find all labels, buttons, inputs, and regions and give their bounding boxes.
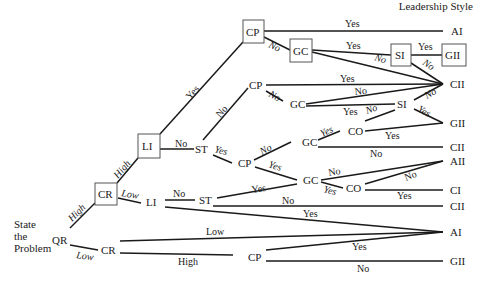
edge-gc-b-yes: Yes [322, 183, 337, 197]
edge-gc-a-yes: Yes [318, 123, 335, 138]
node-cp-lower: CP [238, 157, 251, 169]
edge-li-low-yes: Yes [303, 208, 318, 219]
edge-gc-mid-yes: Yes [343, 106, 358, 117]
header-title: Leadership Style [399, 0, 473, 12]
node-co-lower-b: CO [346, 182, 361, 194]
edge-cp-lower-yes: Yes [267, 158, 283, 173]
node-gc-top: GC [293, 45, 308, 57]
outcome-ai-bottom: AI [450, 226, 462, 238]
edge-cp-bottom-no: No [357, 263, 369, 274]
edge-cp-lower-no: No [257, 142, 273, 158]
outcome-ci: CI [450, 184, 461, 196]
outcome-cii-mid: CII [450, 141, 465, 153]
edge-cp-bottom-yes: Yes [352, 241, 367, 252]
edge-gc-top-yes: Yes [346, 40, 361, 51]
edge-cr-low-high: High [178, 256, 198, 267]
edge-cp-mid-no: No [266, 88, 282, 104]
edge-st-no: No [213, 103, 229, 119]
edge-qr-low: Low [75, 249, 95, 262]
edge-li-low-no: No [173, 188, 185, 199]
edge-li-no: No [175, 138, 187, 149]
node-cr-high: CR [98, 188, 113, 200]
decision-tree-diagram: Leadership Style State the Problem QR CR… [0, 0, 477, 283]
root-line-3: Problem [14, 242, 52, 254]
edge-co-a-yes: Yes [385, 130, 400, 141]
node-qr: QR [52, 234, 68, 246]
node-cp-top: CP [246, 26, 259, 38]
edge-cr-low-low: Low [206, 226, 225, 237]
edge-gc-a-no: No [370, 148, 382, 159]
outcome-gii-mid: GII [450, 117, 466, 129]
node-cp-bottom: CP [248, 251, 261, 263]
outcome-cii-top: CII [450, 78, 465, 90]
tree-edges [70, 31, 443, 261]
edge-co-b-no: No [403, 168, 418, 183]
node-li-low: LI [146, 196, 157, 208]
edge-gc-b-no: No [327, 165, 341, 178]
edge-st-low-yes: Yes [251, 182, 267, 195]
node-si-mid: SI [397, 98, 407, 110]
node-gc-lower-b: GC [303, 174, 318, 186]
node-gc-mid: GC [290, 98, 305, 110]
outcome-cii-low: CII [450, 200, 465, 212]
edge-st-yes: Yes [213, 143, 228, 157]
edge-li-yes: Yes [183, 83, 201, 101]
edge-si-top-yes: Yes [418, 41, 433, 52]
root-line-2: the [14, 230, 28, 242]
outcome-gii-bottom: GII [450, 255, 466, 267]
edge-cp-top-yes: Yes [345, 18, 360, 29]
node-cp-mid: CP [249, 79, 262, 91]
node-co-lower-a: CO [348, 125, 363, 137]
node-gc-lower-a: GC [302, 136, 317, 148]
edge-cp-top-no: No [266, 38, 282, 53]
node-si-top: SI [395, 49, 405, 61]
node-cr-low: CR [101, 244, 116, 256]
outcome-aii: AII [450, 155, 466, 167]
edge-gc-mid-no: No [354, 85, 367, 97]
node-li-high: LI [142, 140, 153, 152]
edge-co-b-yes: Yes [397, 190, 412, 201]
root-line-1: State [14, 218, 36, 230]
node-st-mid: ST [195, 143, 208, 155]
edge-st-low-no: No [282, 195, 294, 206]
outcome-gii-top: GII [445, 49, 461, 61]
node-st-low: ST [199, 194, 212, 206]
edge-cp-mid-yes: Yes [340, 73, 355, 84]
outcome-ai-top: AI [451, 25, 463, 37]
